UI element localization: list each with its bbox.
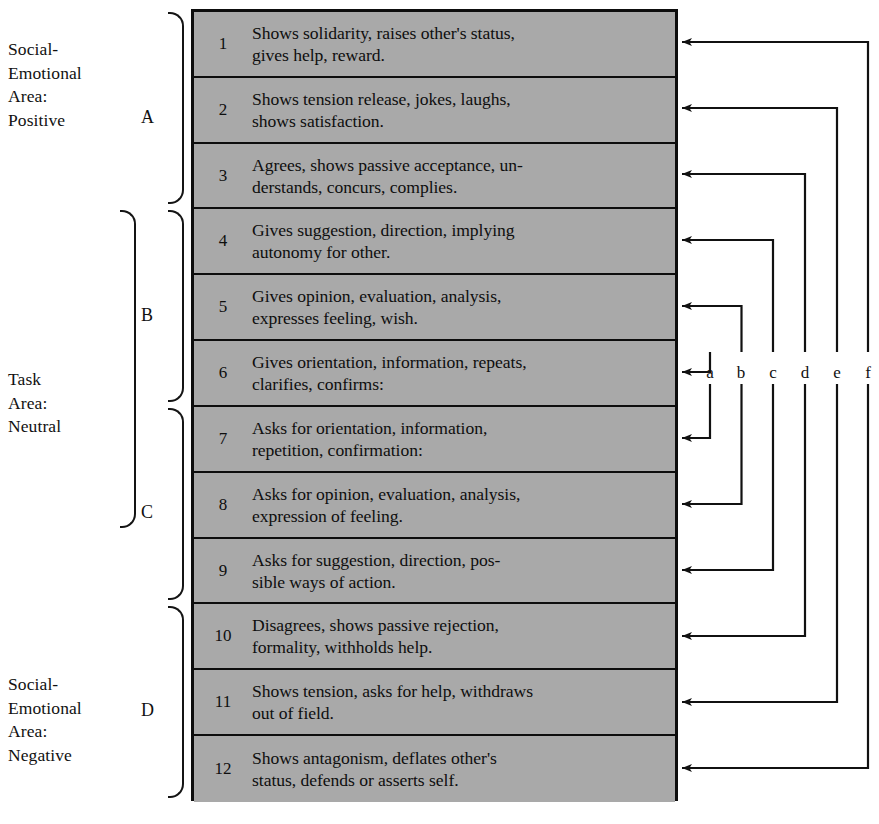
row-number: 6 [194,363,252,383]
lane-label-f: f [865,363,871,383]
row-text: Disagrees, shows passive rejection, form… [252,614,675,658]
lane-label-e: e [833,363,841,383]
category-letter-d: D [141,700,154,721]
table-row[interactable]: 5 Gives opinion, evaluation, analysis, e… [194,275,675,341]
category-letter-a: A [141,107,154,128]
row-number: 5 [194,297,252,317]
row-number: 8 [194,495,252,515]
brace-category-d [168,606,184,798]
brace-category-a [168,12,184,204]
row-text: Asks for orientation, information, repet… [252,417,675,461]
brace-category-b [168,210,184,402]
table-row[interactable]: 6 Gives orientation, information, repeat… [194,341,675,407]
arrow-row-9 [682,384,773,570]
lane-label-d: d [801,363,810,383]
table-row[interactable]: 4 Gives suggestion, direction, implying … [194,209,675,275]
arrow-row-5 [682,306,742,352]
brace-category-c [168,408,184,600]
row-number: 2 [194,100,252,120]
ipa-category-table: 1 Shows solidarity, raises other's statu… [191,9,678,801]
row-text: Gives orientation, information, repeats,… [252,351,675,395]
category-letter-b: B [141,305,153,326]
row-number: 4 [194,231,252,251]
row-text: Agrees, shows passive acceptance, un- de… [252,154,675,198]
table-row[interactable]: 2 Shows tension release, jokes, laughs, … [194,78,675,144]
arrow-row-7 [682,384,710,438]
arrow-row-3 [682,174,805,352]
table-row[interactable]: 3 Agrees, shows passive acceptance, un- … [194,144,675,210]
arrow-row-12 [682,384,868,768]
table-row[interactable]: 9 Asks for suggestion, direction, pos- s… [194,539,675,605]
row-text: Gives opinion, evaluation, analysis, exp… [252,285,675,329]
arrow-row-11 [682,384,837,702]
table-row[interactable]: 11 Shows tension, asks for help, withdra… [194,670,675,736]
row-text: Asks for opinion, evaluation, analysis, … [252,483,675,527]
row-number: 1 [194,34,252,54]
diagram-canvas: Social- Emotional Area: Positive Task Ar… [0,0,879,824]
lane-label-c: c [769,363,777,383]
table-row[interactable]: 1 Shows solidarity, raises other's statu… [194,12,675,78]
table-row[interactable]: 12 Shows antagonism, deflates other's st… [194,736,675,802]
arrow-row-1 [682,42,868,352]
area-label-social-emotional-positive: Social- Emotional Area: Positive [8,38,82,132]
arrow-row-4 [682,240,773,352]
row-number: 7 [194,429,252,449]
area-label-social-emotional-negative: Social- Emotional Area: Negative [8,673,82,767]
row-text: Asks for suggestion, direction, pos- sib… [252,549,675,593]
row-number: 12 [194,759,252,779]
row-text: Shows tension release, jokes, laughs, sh… [252,88,675,132]
row-number: 3 [194,166,252,186]
table-row[interactable]: 7 Asks for orientation, information, rep… [194,407,675,473]
row-number: 11 [194,692,252,712]
area-label-task-neutral: Task Area: Neutral [8,368,61,439]
row-text: Shows solidarity, raises other's status,… [252,22,675,66]
table-row[interactable]: 10 Disagrees, shows passive rejection, f… [194,604,675,670]
row-text: Shows tension, asks for help, withdraws … [252,680,675,724]
brace-task-area [120,210,136,528]
arrow-row-2 [682,108,837,352]
row-text: Gives suggestion, direction, implying au… [252,219,675,263]
row-number: 9 [194,561,252,581]
arrow-row-8 [682,384,742,504]
row-text: Shows antagonism, deflates other's statu… [252,747,675,791]
arrow-row-10 [682,384,805,636]
category-letter-c: C [141,502,153,523]
table-row[interactable]: 8 Asks for opinion, evaluation, analysis… [194,473,675,539]
row-number: 10 [194,626,252,646]
lane-label-a: a [706,363,714,383]
lane-label-b: b [737,363,746,383]
